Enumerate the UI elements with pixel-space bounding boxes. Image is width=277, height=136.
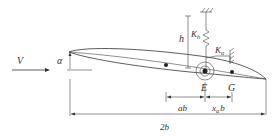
cg-offset-label: xαb: [211, 103, 225, 114]
plunge-spring-label: Kh: [190, 29, 200, 40]
torsion-spring: Kα: [206, 45, 234, 64]
airfoil-diagram: V α h Kh: [0, 0, 277, 136]
plunge-spring: Kh: [190, 8, 213, 68]
offset-dimensions: ab xαb: [166, 82, 232, 114]
pitch-spring-label: Kα: [214, 45, 225, 56]
cg-point: [230, 70, 234, 74]
spring-coil-icon: [203, 30, 209, 46]
elastic-offset-label: ab: [178, 103, 188, 113]
pitch-angle: α: [57, 52, 92, 70]
airfoil: [69, 49, 266, 115]
arrow-head-icon: [45, 68, 50, 72]
quarter-chord-point: [164, 63, 168, 67]
elastic-axis-point: [196, 62, 214, 80]
alpha-label: α: [57, 55, 63, 66]
velocity-label: V: [17, 55, 25, 66]
cg-label: G: [228, 82, 235, 93]
plunge-dimension: h: [179, 16, 191, 68]
elastic-axis-label: E: [200, 82, 207, 93]
chord-dimension: 2b: [70, 79, 265, 132]
freestream-arrow: V: [12, 55, 50, 72]
chord-label: 2b: [160, 122, 170, 132]
plunge-label: h: [179, 33, 184, 44]
